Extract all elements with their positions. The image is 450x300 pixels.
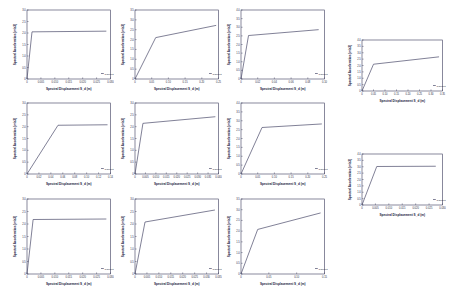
x-axis-label: Spectral Displacement S_d (m) (260, 87, 305, 91)
y-tick-label: 1.5 (130, 235, 134, 239)
x-tick-label: 0.10 (294, 275, 300, 279)
y-tick-label: 3.5 (357, 44, 361, 48)
y-tick-label: 1.5 (130, 47, 134, 51)
legend-label: Capacity (437, 199, 446, 202)
y-tick-label: 1.0 (357, 190, 361, 194)
y-tick-label: 0.5 (22, 260, 26, 264)
x-tick-label: 0.015 (163, 175, 170, 179)
capacity-curve-plot: 00.0050.0100.0150.0200.0250.03000.51.01.… (345, 150, 446, 218)
y-tick-label: 1.5 (130, 137, 134, 141)
x-tick-label: 0.25 (417, 92, 423, 96)
x-tick-label: 0 (240, 80, 242, 84)
y-tick-label: 0.5 (22, 66, 26, 70)
x-tick-label: 0.015 (66, 80, 73, 84)
x-tick-label: 0.020 (79, 275, 86, 279)
capacity-curve-plot: 00.050.100.150.200.2500.51.01.52.02.53.0… (224, 99, 328, 187)
x-tick-label: 0.05 (255, 175, 261, 179)
x-tick-label: 0.10 (322, 80, 328, 84)
x-axis-label: Spectral Displacement S_d (m) (260, 182, 305, 186)
x-tick-label: 0.005 (372, 206, 379, 210)
x-tick-label: 0 (26, 175, 28, 179)
legend-label: Capacity (213, 268, 222, 271)
x-tick-label: 0.015 (168, 275, 175, 279)
legend-label: Capacity (105, 73, 114, 76)
x-tick-label: 0.035 (215, 275, 222, 279)
y-tick-label: 1.0 (130, 148, 134, 152)
y-tick-label: 0.5 (130, 260, 134, 264)
capacity-curve-line (241, 30, 319, 79)
y-tick-label: 3.5 (236, 197, 240, 201)
x-tick-label: 0.020 (79, 80, 86, 84)
x-tick-label: 0.04 (48, 175, 54, 179)
axes-frame (135, 103, 219, 174)
y-tick-label: 3.0 (236, 25, 240, 29)
x-axis-label: Spectral Displacement S_d (m) (46, 87, 91, 91)
capacity-curve-line (135, 117, 215, 174)
y-tick-label: 3.0 (357, 165, 361, 169)
x-tick-label: 0.010 (52, 80, 59, 84)
x-tick-label: 0.020 (174, 175, 181, 179)
x-tick-label: 0.08 (305, 80, 311, 84)
x-tick-label: 0.10 (84, 175, 90, 179)
capacity-curve-line (135, 25, 216, 79)
y-tick-label: 0.5 (357, 83, 361, 87)
y-tick-label: 2.0 (357, 178, 361, 182)
x-tick-label: 0.030 (203, 275, 210, 279)
x-tick-label: 0.005 (142, 175, 149, 179)
y-tick-label: 1.0 (22, 247, 26, 251)
x-tick-label: 0 (240, 175, 242, 179)
x-axis-label: Spectral Displacement S_d (m) (260, 282, 305, 286)
x-tick-label: 0.020 (179, 275, 186, 279)
x-axis-label: Spectral Displacement S_d (m) (154, 282, 199, 286)
x-tick-label: 0.15 (322, 275, 328, 279)
x-tick-label: 0.010 (153, 175, 160, 179)
y-axis-label: Spectral Acceleration (m/s2) (227, 118, 231, 160)
y-tick-label: 1.0 (130, 57, 134, 61)
axes-frame (27, 10, 111, 79)
y-tick-label: 1.0 (236, 154, 240, 158)
y-tick-label: 1.0 (22, 54, 26, 58)
x-tick-label: 0.20 (405, 92, 411, 96)
x-tick-label: 0.14 (108, 175, 114, 179)
x-tick-label: 0.15 (394, 92, 400, 96)
y-tick-label: 3.0 (130, 101, 134, 105)
x-tick-label: 0.15 (183, 80, 189, 84)
x-tick-label: 0.010 (156, 275, 163, 279)
y-tick-label: 2.5 (130, 210, 134, 214)
y-tick-label: 2.0 (236, 137, 240, 141)
y-tick-label: 2.5 (357, 57, 361, 61)
y-tick-label: 1.5 (236, 145, 240, 149)
x-tick-label: 0.10 (382, 92, 388, 96)
capacity-curve-line (27, 125, 108, 174)
x-axis-label: Spectral Displacement S_d (m) (154, 87, 199, 91)
x-tick-label: 0.10 (272, 175, 278, 179)
y-tick-label: 2.0 (130, 125, 134, 129)
axes-frame (27, 199, 111, 274)
y-tick-label: 3.5 (357, 158, 361, 162)
x-tick-label: 0.06 (60, 175, 66, 179)
y-tick-label: 0.5 (236, 163, 240, 167)
y-axis-label: Spectral Acceleration (m/s2) (121, 118, 125, 160)
y-tick-label: 1.0 (130, 247, 134, 251)
x-tick-label: 0.010 (52, 275, 59, 279)
y-tick-label: 1.5 (22, 235, 26, 239)
y-tick-label: 1.5 (236, 240, 240, 244)
capacity-curve-line (135, 210, 215, 274)
x-axis-label: Spectral Displacement S_d (m) (46, 282, 91, 286)
y-tick-label: 3.0 (22, 101, 26, 105)
y-tick-label: 1.5 (22, 43, 26, 47)
y-tick-label: 4.0 (357, 38, 361, 42)
x-tick-label: 0.35 (440, 92, 446, 96)
x-axis-label: Spectral Displacement S_d (m) (46, 182, 91, 186)
x-tick-label: 0.30 (428, 92, 434, 96)
figure-canvas: 00.0050.0100.0150.0200.0250.03000.51.01.… (0, 0, 450, 300)
capacity-curve-plot: 00.050.100.150.200.250.300.3500.51.01.52… (345, 36, 446, 104)
y-tick-label: 1.5 (357, 184, 361, 188)
capacity-curve-plot: 00.0050.0100.0150.0200.0250.0300.0350.04… (118, 99, 222, 187)
x-tick-label: 0 (26, 275, 28, 279)
x-tick-label: 0 (361, 206, 363, 210)
axes-frame (362, 154, 443, 205)
legend-label: Capacity (319, 168, 328, 171)
y-axis-label: Spectral Acceleration (m/s2) (13, 118, 17, 160)
capacity-curve-line (362, 166, 436, 205)
